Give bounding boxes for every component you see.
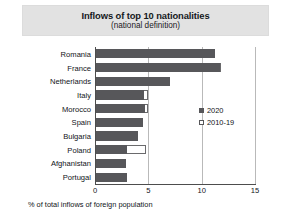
gridline-15 — [255, 47, 256, 184]
category-label: Bulgaria — [63, 132, 91, 141]
bar-2020 — [96, 77, 170, 86]
bar-row: Italy — [95, 88, 255, 102]
category-label: Morocco — [62, 104, 91, 113]
legend-swatch-icon — [199, 120, 204, 125]
bar-row: Portugal — [95, 170, 255, 184]
category-label: Spain — [72, 118, 91, 127]
bar-row: Poland — [95, 143, 255, 157]
chart-title: Inflows of top 10 nationalities — [81, 10, 209, 21]
bar-2020 — [96, 63, 220, 72]
bar-row: Netherlands — [95, 74, 255, 88]
bar-2020 — [96, 90, 144, 99]
legend-label: 2020 — [207, 106, 223, 115]
chart-title-band: Inflows of top 10 nationalities (nationa… — [22, 5, 269, 36]
bar-2020 — [96, 159, 126, 168]
bar-row: Afghanistan — [95, 157, 255, 171]
chart-subtitle: (national definition) — [111, 21, 180, 31]
legend-item[interactable]: 2010-19 — [199, 118, 234, 127]
bar-2020 — [96, 131, 138, 140]
category-label: Portugal — [63, 173, 91, 182]
x-axis-line — [95, 184, 256, 185]
bar-2020 — [96, 104, 145, 113]
x-tick-label: 5 — [146, 186, 150, 195]
legend-swatch-icon — [199, 108, 204, 113]
category-label: Poland — [67, 145, 91, 154]
bar-row: Romania — [95, 47, 255, 61]
category-label: Italy — [77, 90, 91, 99]
bar-row: Bulgaria — [95, 129, 255, 143]
chart-figure: Inflows of top 10 nationalities (nationa… — [0, 0, 288, 224]
legend-item[interactable]: 2020 — [199, 106, 234, 115]
bar-2020 — [96, 145, 127, 154]
category-label: Romania — [61, 49, 91, 58]
category-label: Afghanistan — [51, 159, 91, 168]
bar-2020 — [96, 118, 143, 127]
category-label: Netherlands — [50, 77, 91, 86]
chart-legend: 20202010-19 — [199, 106, 234, 127]
x-tick-label: 0 — [93, 186, 97, 195]
x-tick-label: 10 — [197, 186, 205, 195]
bar-2020 — [96, 49, 215, 58]
bar-2020 — [96, 173, 127, 182]
x-axis-title: % of total inflows of foreign population — [28, 200, 153, 209]
x-tick-label: 15 — [251, 186, 259, 195]
legend-label: 2010-19 — [207, 118, 234, 127]
category-label: France — [67, 63, 91, 72]
bar-row: France — [95, 61, 255, 75]
